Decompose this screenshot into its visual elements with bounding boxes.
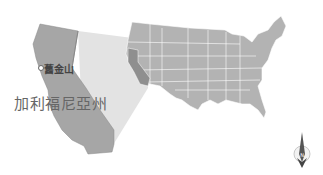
map-canvas: N	[0, 0, 323, 175]
state-label: 加利福尼亞州	[14, 92, 107, 113]
city-label: 舊金山	[44, 61, 74, 76]
compass-rose-icon: N	[294, 132, 310, 168]
svg-text:N: N	[300, 152, 304, 158]
